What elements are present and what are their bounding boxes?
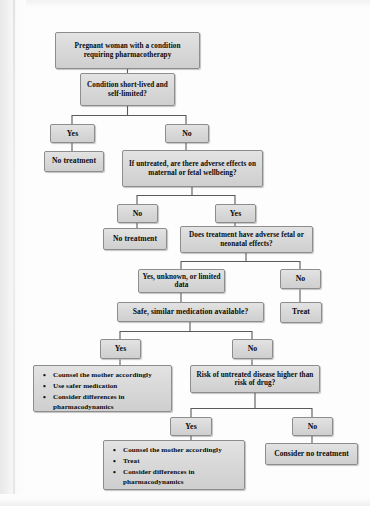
node-risk-yes: Yes	[170, 417, 212, 436]
node-treatment-no: No	[280, 269, 321, 289]
node-outcome-treat: Counsel the mother accordingly Treat Con…	[103, 440, 245, 490]
node-no-treatment-2: No treatment	[103, 228, 167, 250]
node-outcome-safer-medication: Counsel the mother accordingly Use safer…	[33, 365, 172, 412]
edge-treatment-adverse-split	[181, 253, 300, 270]
node-risk-no: No	[292, 417, 333, 436]
node-question-short-lived: Condition short-lived and self-limited?	[80, 73, 175, 106]
list-item: Use safer medication	[53, 381, 166, 391]
node-untreated-no: No	[117, 204, 158, 223]
node-question-untreated-adverse: If untreated, are there adverse effects …	[122, 150, 263, 187]
list-item: Treat	[123, 456, 239, 466]
list-item: Consider differences in pharmacodynamics	[123, 467, 239, 487]
node-treatment-yes-unknown: Yes, unknown, or limited data	[138, 269, 225, 293]
node-untreated-yes: Yes	[215, 204, 256, 223]
node-treat-1: Treat	[280, 302, 322, 323]
list-item: Counsel the mother accordingly	[123, 445, 239, 455]
list-item: Counsel the mother accordingly	[53, 370, 166, 380]
edge-risk-split	[191, 393, 312, 418]
node-safe-no: No	[232, 339, 273, 359]
edge-safe-similar-split	[120, 323, 252, 340]
node-start: Pregnant woman with a condition requirin…	[55, 32, 200, 69]
node-consider-no-treatment: Consider no treatment	[265, 443, 358, 465]
node-no-treatment-1: No treatment	[44, 151, 104, 172]
edge-untreated-split	[137, 187, 235, 205]
edge-shortlived-split	[72, 106, 186, 125]
node-question-safe-similar: Safe, similar medication available?	[117, 302, 264, 322]
node-safe-yes: Yes	[100, 339, 141, 359]
flowchart-page: Pregnant woman with a condition requirin…	[0, 0, 370, 506]
node-question-treatment-adverse: Does treatment have adverse fetal or neo…	[180, 226, 313, 253]
list-item: Consider differences in pharmacodynamics	[53, 392, 166, 412]
node-short-lived-no: No	[165, 124, 209, 143]
outcome-safer-medication-list: Counsel the mother accordingly Use safer…	[40, 370, 166, 412]
node-short-lived-yes: Yes	[50, 124, 95, 143]
node-question-risk-higher: Risk of untreated disease higher than ri…	[190, 365, 320, 393]
outcome-treat-list: Counsel the mother accordingly Treat Con…	[110, 445, 239, 487]
